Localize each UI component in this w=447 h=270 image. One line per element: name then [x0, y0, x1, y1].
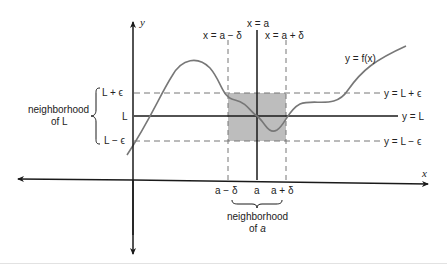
- x-axis: [133, 180, 428, 184]
- tick-L-plus-epsilon: L + ϵ: [102, 87, 124, 98]
- tick-L-minus-epsilon: L − ϵ: [104, 135, 126, 146]
- label-y-L-minus-epsilon: y = L − ϵ: [384, 136, 422, 147]
- limit-diagram: y x x = a x = a − δ x = a + δ y = f(x) y…: [0, 0, 447, 270]
- tick-L: L: [122, 111, 128, 122]
- label-x-equals-a: x = a: [247, 18, 269, 29]
- label-neighborhood-L-line1: neighborhood: [28, 104, 89, 115]
- tick-a: a: [254, 185, 260, 196]
- tick-a-minus-delta: a − δ: [215, 185, 238, 196]
- label-neighborhood-a-line2: of a: [249, 223, 266, 234]
- x-axis-label: x: [421, 167, 427, 179]
- label-neighborhood-a-line1: neighborhood: [227, 211, 288, 222]
- label-curve: y = f(x): [345, 53, 376, 64]
- label-neighborhood-L-line2: of L: [51, 116, 68, 127]
- x-axis-left: [18, 179, 133, 180]
- label-x-equals-a-minus-delta: x = a − δ: [203, 30, 242, 41]
- y-axis-label: y: [139, 16, 145, 28]
- bottom-divider: [0, 263, 447, 264]
- brace-neighborhood-a: [232, 200, 282, 208]
- label-y-L-plus-epsilon: y = L + ϵ: [384, 88, 422, 99]
- tick-a-plus-delta: a + δ: [271, 185, 294, 196]
- label-y-L: y = L: [402, 111, 424, 122]
- label-x-equals-a-plus-delta: x = a + δ: [265, 30, 304, 41]
- brace-neighborhood-L: [91, 88, 100, 144]
